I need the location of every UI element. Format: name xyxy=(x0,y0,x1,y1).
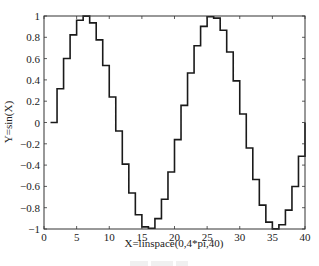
figure-caption-faded xyxy=(130,254,250,262)
x-tick-label: 35 xyxy=(267,231,279,243)
y-tick-label: 0.2 xyxy=(26,95,40,107)
x-axis-label: X=linspace(0,4*pi,40) xyxy=(124,237,223,250)
y-tick-label: 0.6 xyxy=(26,53,40,65)
y-tick-label: 0.4 xyxy=(26,74,40,86)
x-tick-label: 40 xyxy=(300,231,312,243)
y-tick-label: −0.2 xyxy=(20,138,40,150)
plot-area xyxy=(51,16,305,229)
x-tick-label: 5 xyxy=(74,231,80,243)
stairs-chart: 0510152025303540−1−0.8−0.6−0.4−0.200.20.… xyxy=(0,0,319,266)
y-tick-label: 0.8 xyxy=(26,31,40,43)
axes: 0510152025303540−1−0.8−0.6−0.4−0.200.20.… xyxy=(20,10,311,243)
x-tick-label: 0 xyxy=(41,231,47,243)
x-tick-label: 10 xyxy=(104,231,116,243)
axes-box xyxy=(44,16,305,229)
y-tick-label: 1 xyxy=(35,10,41,22)
y-tick-label: 0 xyxy=(35,117,41,129)
y-tick-label: −0.4 xyxy=(20,159,40,171)
x-tick-label: 30 xyxy=(234,231,246,243)
y-axis-label: Y=sin(X) xyxy=(2,101,15,144)
y-tick-label: −0.6 xyxy=(20,180,40,192)
y-tick-label: −0.8 xyxy=(20,202,40,214)
sine-stairs-line xyxy=(51,16,305,229)
y-tick-label: −1 xyxy=(28,223,40,235)
